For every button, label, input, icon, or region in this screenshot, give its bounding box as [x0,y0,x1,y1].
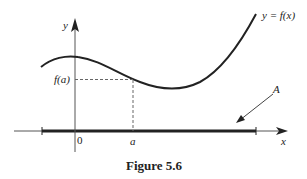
origin-label: 0 [77,134,83,146]
x-axis-label: x [280,135,286,147]
pointer-arrow-icon [236,115,245,123]
curve-label: y = f(x) [261,9,295,22]
arrow-label-A: A [272,83,280,95]
a-label: a [130,135,136,147]
pointer-line [240,94,273,120]
y-axis-label: y [62,19,68,31]
figure-caption: Figure 5.6 [126,158,183,173]
figure-diagram: y x y = f(x) f(a) 0 a A Figure 5.6 [0,0,307,179]
f-of-a-label: f(a) [54,73,70,86]
